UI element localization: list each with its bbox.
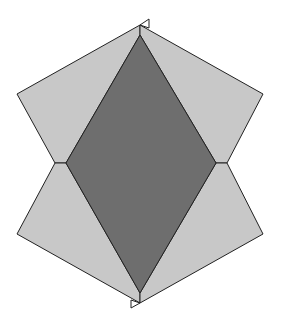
geometry-diagram — [0, 0, 282, 326]
